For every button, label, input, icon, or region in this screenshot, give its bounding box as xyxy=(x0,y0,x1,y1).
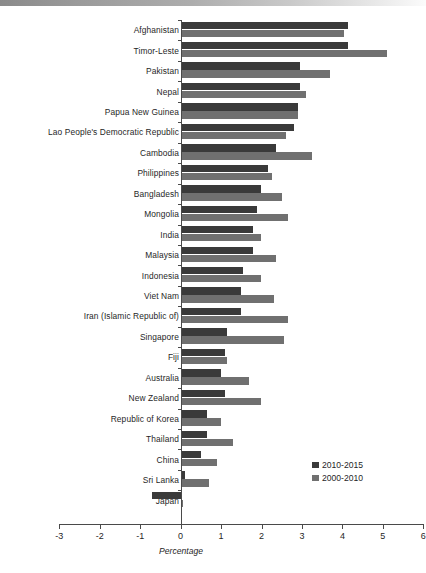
bar-2000-2010 xyxy=(181,132,286,139)
bar-2000-2010 xyxy=(181,91,306,98)
category-label: Thailand xyxy=(146,434,179,444)
y-axis-tick xyxy=(178,143,181,144)
bar-2000-2010 xyxy=(181,152,312,159)
x-axis-tick-label: -1 xyxy=(136,531,144,541)
category-label: Cambodia xyxy=(140,148,179,158)
bar-chart: AfghanistanTimor-LestePakistanNepalPapua… xyxy=(0,0,426,573)
bar-2010-2015 xyxy=(152,492,180,499)
x-axis-tick xyxy=(181,525,182,529)
y-axis-line xyxy=(181,20,182,524)
y-axis-tick xyxy=(178,225,181,226)
bar-2000-2010 xyxy=(181,275,262,282)
bar-2000-2010 xyxy=(181,479,209,486)
category-label: Indonesia xyxy=(142,271,179,281)
chart-category-row: Viet Nam xyxy=(0,286,426,306)
y-axis-tick xyxy=(178,61,181,62)
bar-2010-2015 xyxy=(181,103,298,110)
bar-2000-2010 xyxy=(181,459,217,466)
legend-item-2000-2010[interactable]: 2000-2010 xyxy=(312,472,363,484)
bar-2000-2010 xyxy=(181,439,234,446)
bar-2010-2015 xyxy=(181,144,276,151)
bar-2010-2015 xyxy=(181,83,300,90)
chart-category-row: Nepal xyxy=(0,81,426,101)
bar-2000-2010 xyxy=(181,336,284,343)
bar-2000-2010 xyxy=(181,30,345,37)
legend-label-2000-2010: 2000-2010 xyxy=(322,474,363,483)
x-axis-tick-label: 2 xyxy=(259,531,264,541)
category-label: Republic of Korea xyxy=(111,414,179,424)
bar-2000-2010 xyxy=(181,111,298,118)
chart-category-row: Thailand xyxy=(0,429,426,449)
bar-2000-2010 xyxy=(181,214,288,221)
legend-swatch-2010-2015 xyxy=(312,462,319,469)
bar-2000-2010 xyxy=(181,193,282,200)
x-axis-tick xyxy=(100,525,101,529)
chart-category-row: New Zealand xyxy=(0,388,426,408)
bar-2010-2015 xyxy=(181,247,254,254)
y-axis-tick xyxy=(178,163,181,164)
bar-2000-2010 xyxy=(181,398,262,405)
bar-2000-2010 xyxy=(181,377,250,384)
x-axis-tick xyxy=(342,525,343,529)
bar-2000-2010 xyxy=(181,295,274,302)
y-axis-tick xyxy=(178,184,181,185)
chart-category-row: Afghanistan xyxy=(0,20,426,40)
chart-category-row: Bangladesh xyxy=(0,184,426,204)
chart-category-row: Cambodia xyxy=(0,143,426,163)
category-label: Afghanistan xyxy=(134,25,179,35)
x-axis-tick xyxy=(140,525,141,529)
category-label: Iran (Islamic Republic of) xyxy=(84,311,179,321)
x-axis-tick xyxy=(59,525,60,529)
bar-2010-2015 xyxy=(181,369,221,376)
category-label: Lao People's Democratic Republic xyxy=(48,127,179,137)
legend-swatch-2000-2010 xyxy=(312,475,319,482)
bar-2000-2010 xyxy=(181,50,387,57)
chart-category-row: India xyxy=(0,225,426,245)
chart-category-row: Iran (Islamic Republic of) xyxy=(0,306,426,326)
y-axis-tick xyxy=(178,327,181,328)
bar-2000-2010 xyxy=(181,173,272,180)
x-axis-tick xyxy=(383,525,384,529)
y-axis-tick xyxy=(178,388,181,389)
y-axis-tick xyxy=(178,265,181,266)
chart-category-row: Republic of Korea xyxy=(0,409,426,429)
bar-2010-2015 xyxy=(181,267,244,274)
bar-2010-2015 xyxy=(181,22,349,29)
bar-2010-2015 xyxy=(181,287,242,294)
y-axis-tick xyxy=(178,347,181,348)
x-axis-tick xyxy=(423,525,424,529)
bar-2010-2015 xyxy=(181,62,300,69)
category-label: Papua New Guinea xyxy=(105,107,179,117)
bar-2010-2015 xyxy=(181,349,225,356)
category-label: Pakistan xyxy=(146,66,179,76)
y-axis-tick xyxy=(178,286,181,287)
x-axis-tick-label: 0 xyxy=(178,531,183,541)
bar-2010-2015 xyxy=(181,226,254,233)
chart-category-row: Lao People's Democratic Republic xyxy=(0,122,426,142)
y-axis-tick xyxy=(178,20,181,21)
bar-2010-2015 xyxy=(181,206,258,213)
category-label: India xyxy=(160,230,179,240)
y-axis-tick xyxy=(178,470,181,471)
category-label: Bangladesh xyxy=(134,189,179,199)
bar-2010-2015 xyxy=(181,410,207,417)
category-label: Philippines xyxy=(137,168,179,178)
bar-2000-2010 xyxy=(181,255,276,262)
x-axis-tick xyxy=(262,525,263,529)
bar-2010-2015 xyxy=(181,328,228,335)
category-label: Mongolia xyxy=(144,209,179,219)
bar-2010-2015 xyxy=(181,185,262,192)
bar-2010-2015 xyxy=(181,308,242,315)
chart-category-row: Papua New Guinea xyxy=(0,102,426,122)
x-axis-line xyxy=(59,524,424,525)
category-label: New Zealand xyxy=(129,393,179,403)
x-axis-tick xyxy=(221,525,222,529)
chart-category-row: Australia xyxy=(0,368,426,388)
category-label: Singapore xyxy=(140,332,179,342)
y-axis-tick xyxy=(178,102,181,103)
bar-2000-2010 xyxy=(181,357,228,364)
bar-2010-2015 xyxy=(181,42,349,49)
category-label: Fiji xyxy=(168,352,179,362)
category-label: Viet Nam xyxy=(144,291,179,301)
legend-item-2010-2015[interactable]: 2010-2015 xyxy=(312,459,363,471)
